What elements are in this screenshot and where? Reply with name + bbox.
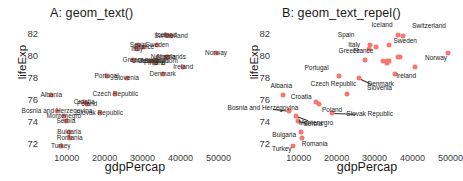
data-point	[336, 73, 341, 78]
panel-b-geom-text-repel: B: geom_text_repel() lifeExp gdpPercap 7…	[232, 0, 463, 181]
panel-b-y-tick: 74	[259, 116, 270, 127]
panel-a-y-tick: 74	[27, 116, 38, 127]
point-label: Turkey	[272, 145, 292, 152]
point-label: Sweden	[145, 42, 169, 49]
point-label: Albania	[270, 82, 292, 89]
panel-a-y-tick: 76	[27, 94, 38, 105]
panel-a-x-tick: 30000	[130, 153, 155, 163]
point-label: Slovenia	[114, 75, 139, 82]
point-label: Norway	[205, 49, 227, 56]
point-label: Slovak Republic	[346, 111, 393, 118]
point-label: Serbia	[303, 121, 322, 128]
data-point	[413, 64, 418, 69]
data-point	[299, 130, 304, 135]
point-label: Spain	[130, 42, 147, 49]
data-point	[387, 42, 392, 47]
panel-b-plot-area: 7274767880821000020000300004000050000Alb…	[274, 26, 460, 150]
point-label: Greece	[339, 48, 360, 55]
panel-a-plot-area: 7274767880821000020000300004000050000Alb…	[42, 26, 228, 150]
point-label: Turkey	[51, 142, 71, 149]
panel-b-y-tick: 76	[259, 94, 270, 105]
panel-b-x-tick: 10000	[286, 153, 311, 163]
panel-b-x-tick: 30000	[362, 153, 387, 163]
point-label: Bosnia and Herzegovina	[228, 105, 299, 112]
data-point	[281, 92, 286, 97]
data-point	[356, 76, 361, 81]
point-label: Slovenia	[367, 85, 392, 92]
panel-a-y-tick: 72	[27, 138, 38, 149]
panel-b-x-tick: 50000	[438, 153, 463, 163]
point-label: Switzerland	[154, 33, 188, 40]
point-label: Albania	[40, 91, 62, 98]
point-label: United Kingdom	[132, 58, 178, 65]
data-point	[374, 45, 379, 50]
point-label: Romania	[302, 141, 328, 148]
point-label: Ireland	[396, 73, 416, 80]
point-label: Czech Republic	[311, 80, 357, 87]
data-point	[363, 58, 368, 63]
panel-a-x-tick: 10000	[54, 153, 79, 163]
point-label: Serbia	[56, 118, 75, 125]
point-label: Czech Republic	[93, 90, 139, 97]
panel-a-title: A: geom_text()	[50, 6, 133, 20]
point-label: Norway	[425, 54, 447, 61]
point-label: Croatia	[291, 94, 312, 101]
point-label: Spain	[338, 32, 355, 39]
panel-b-y-tick: 72	[259, 138, 270, 149]
point-label: Italy	[348, 42, 360, 49]
panel-b-x-tick: 40000	[400, 153, 425, 163]
point-label: Sweden	[393, 38, 417, 45]
data-point	[317, 101, 322, 106]
point-label: Switzerland	[412, 23, 446, 30]
panel-a-y-tick: 80	[27, 49, 38, 60]
panel-b-y-tick: 78	[259, 71, 270, 82]
panel-b-title: B: geom_text_repel()	[282, 6, 401, 20]
panel-b-y-axis-label: lifeExp	[248, 27, 260, 97]
figure-root: A: geom_text() lifeExp gdpPercap 7274767…	[0, 0, 463, 181]
panel-a-x-tick: 40000	[168, 153, 193, 163]
point-label: Poland	[77, 100, 97, 107]
data-point	[345, 91, 350, 96]
panel-a-y-axis-label: lifeExp	[16, 27, 28, 97]
point-label: Ireland	[173, 64, 193, 71]
point-label: Denmark	[149, 70, 175, 77]
panel-a-x-tick: 20000	[92, 153, 117, 163]
panel-a-x-tick: 50000	[206, 153, 231, 163]
point-label: Poland	[322, 106, 342, 113]
point-label: Romania	[57, 135, 83, 142]
data-point	[398, 55, 403, 60]
point-label: Bulgaria	[272, 132, 296, 139]
panel-a-y-tick: 78	[27, 71, 38, 82]
point-label: Slovak Republic	[76, 110, 123, 117]
panel-b-y-tick: 80	[259, 49, 270, 60]
data-point	[384, 59, 389, 64]
panel-a-y-tick: 82	[27, 27, 38, 38]
panel-a-geom-text: A: geom_text() lifeExp gdpPercap 7274767…	[0, 0, 231, 181]
data-point	[293, 113, 298, 118]
point-label: Portugal	[304, 65, 328, 72]
point-label: Iceland	[372, 22, 393, 29]
panel-b-y-tick: 82	[259, 27, 270, 38]
panel-b-x-tick: 20000	[324, 153, 349, 163]
